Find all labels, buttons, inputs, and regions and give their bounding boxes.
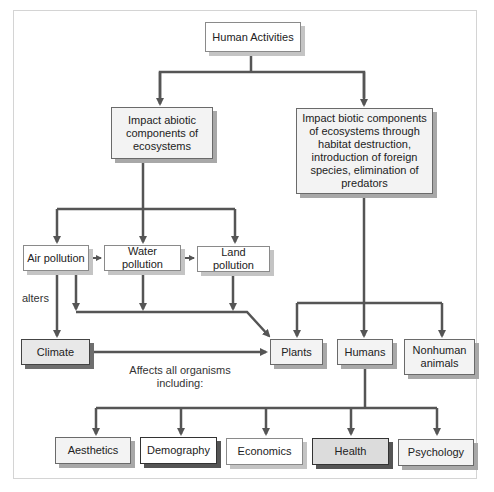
affects-label: Affects all organisms including: — [125, 364, 235, 390]
node-abiotic-impact: Impact abiotic components of ecosystems — [111, 107, 213, 159]
node-economics: Economics — [226, 438, 303, 465]
node-psychology: Psychology — [398, 439, 474, 466]
node-climate: Climate — [21, 339, 90, 365]
node-biotic-impact: Impact biotic components of ecosystems t… — [296, 108, 433, 194]
node-human-activities: Human Activities — [205, 22, 301, 52]
node-air-pollution: Air pollution — [23, 245, 89, 271]
node-health: Health — [312, 438, 389, 465]
node-humans: Humans — [337, 339, 393, 365]
node-plants: Plants — [270, 339, 323, 365]
node-water-pollution: Water pollution — [104, 245, 181, 271]
node-aesthetics: Aesthetics — [55, 437, 131, 464]
alters-label: alters — [22, 292, 56, 305]
node-demography: Demography — [140, 437, 217, 464]
node-land-pollution: Land pollution — [197, 246, 270, 272]
node-nonhuman-animals: Nonhuman animals — [404, 339, 475, 375]
